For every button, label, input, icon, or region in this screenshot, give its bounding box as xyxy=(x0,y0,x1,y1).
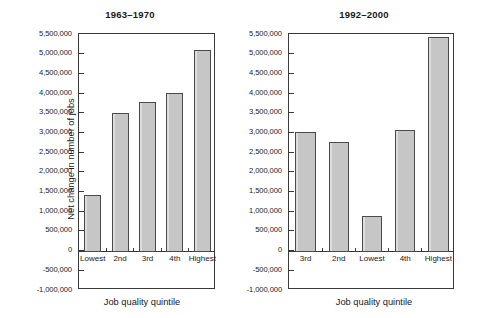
y-tick-mark xyxy=(79,171,84,172)
bar xyxy=(428,37,449,251)
bar xyxy=(295,132,316,251)
y-tick-label: 1,000,000 xyxy=(249,206,282,216)
panel-1992-2000: 1992–2000 5,500,0005,000,0004,500,0004,0… xyxy=(222,0,480,318)
x-tick-label: Highest xyxy=(425,254,452,263)
bar xyxy=(362,216,383,251)
y-tick-mark xyxy=(289,211,294,212)
panel-1963-1970: 1963–1970 Net change in number of jobs 5… xyxy=(0,0,222,318)
y-tick-mark xyxy=(289,132,294,133)
y-tick-label: 0 xyxy=(68,245,72,255)
bar xyxy=(112,113,129,252)
x-tick-label: Lowest xyxy=(359,254,384,263)
y-tick-label: -1,000,000 xyxy=(247,285,282,295)
y-tick-mark xyxy=(289,152,294,153)
y-tick-mark xyxy=(79,53,84,54)
y-tick-label: 2,500,000 xyxy=(249,147,282,157)
bar xyxy=(194,50,211,252)
y-tick-mark xyxy=(289,53,294,54)
y-tick-mark xyxy=(79,191,84,192)
x-tick-label: 3rd xyxy=(300,254,312,263)
y-tick-label: 5,000,000 xyxy=(249,48,282,58)
bar xyxy=(395,130,416,251)
x-tick-label: 4th xyxy=(400,254,411,263)
x-tick-mark xyxy=(188,248,189,252)
y-tick-mark xyxy=(289,230,294,231)
x-tick-label: 2nd xyxy=(113,254,126,263)
y-tick-mark xyxy=(289,73,294,74)
y-tick-label: 4,500,000 xyxy=(249,68,282,78)
y-tick-label: 5,500,000 xyxy=(249,29,282,39)
y-tick-mark xyxy=(79,152,84,153)
figure: 1963–1970 Net change in number of jobs 5… xyxy=(0,0,480,318)
y-tick-mark xyxy=(79,132,84,133)
y-tick-label: 0 xyxy=(278,245,282,255)
x-tick-mark xyxy=(388,248,389,252)
y-tick-label: 4,000,000 xyxy=(39,88,72,98)
y-tick-label: 3,000,000 xyxy=(39,127,72,137)
y-tick-label: 4,500,000 xyxy=(39,68,72,78)
x-tick-mark xyxy=(421,248,422,252)
y-tick-mark xyxy=(289,250,294,251)
y-tick-label: 500,000 xyxy=(255,225,282,235)
plot-area: 5,500,0005,000,0004,500,0004,000,0003,50… xyxy=(288,33,454,289)
y-tick-label: 3,500,000 xyxy=(39,107,72,117)
x-axis-label: Job quality quintile xyxy=(222,297,480,307)
y-tick-label: 5,500,000 xyxy=(39,29,72,39)
y-tick-mark xyxy=(79,73,84,74)
y-tick-mark xyxy=(79,112,84,113)
y-tick-label: 4,000,000 xyxy=(249,88,282,98)
y-tick-mark xyxy=(79,93,84,94)
plot-area: 5,500,0005,000,0004,500,0004,000,0003,50… xyxy=(78,33,215,289)
y-tick-label: -1,000,000 xyxy=(37,285,72,295)
x-tick-label: Highest xyxy=(189,254,216,263)
y-tick-label: 3,000,000 xyxy=(249,127,282,137)
y-tick-label: 1,500,000 xyxy=(39,186,72,196)
x-tick-mark xyxy=(322,248,323,252)
y-tick-label: -500,000 xyxy=(43,265,72,275)
y-tick-label: -500,000 xyxy=(253,265,282,275)
y-tick-label: 5,000,000 xyxy=(39,48,72,58)
bar xyxy=(329,142,350,251)
x-tick-mark xyxy=(133,248,134,252)
x-tick-label: 3rd xyxy=(142,254,154,263)
x-tick-label: 4th xyxy=(169,254,180,263)
y-tick-label: 3,500,000 xyxy=(249,107,282,117)
y-tick-mark xyxy=(289,270,294,271)
x-tick-label: 2nd xyxy=(332,254,345,263)
y-tick-mark xyxy=(289,112,294,113)
bar xyxy=(84,195,101,251)
panel-title: 1992–2000 xyxy=(222,9,480,20)
y-tick-label: 1,000,000 xyxy=(39,206,72,216)
x-axis-label: Job quality quintile xyxy=(0,297,222,307)
y-tick-mark xyxy=(289,171,294,172)
x-tick-label: Lowest xyxy=(80,254,105,263)
y-tick-mark xyxy=(289,93,294,94)
bar xyxy=(166,93,183,252)
y-tick-label: 2,000,000 xyxy=(39,166,72,176)
y-tick-label: 500,000 xyxy=(45,225,72,235)
panel-title: 1963–1970 xyxy=(0,9,222,20)
x-tick-mark xyxy=(106,248,107,252)
y-tick-mark xyxy=(79,270,84,271)
x-tick-mark xyxy=(161,248,162,252)
y-tick-label: 1,500,000 xyxy=(249,186,282,196)
bar xyxy=(139,102,156,251)
x-tick-mark xyxy=(355,248,356,252)
y-tick-label: 2,000,000 xyxy=(249,166,282,176)
y-tick-mark xyxy=(289,191,294,192)
y-tick-label: 2,500,000 xyxy=(39,147,72,157)
